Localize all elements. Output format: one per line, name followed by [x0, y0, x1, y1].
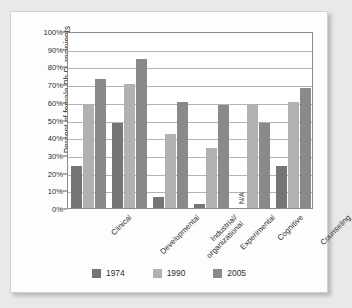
- y-tick-label: 80%: [29, 63, 63, 72]
- y-tick-label: 90%: [29, 45, 63, 54]
- y-tick-label: 30%: [29, 151, 63, 160]
- bar-2005: [177, 102, 188, 208]
- na-annotation: N/A: [238, 192, 245, 204]
- x-tick-label: Cognitive: [275, 213, 304, 242]
- legend-swatch-icon: [92, 269, 101, 278]
- y-tick-label: 40%: [29, 134, 63, 143]
- bar-1990: [288, 102, 299, 208]
- bar-group: [150, 33, 191, 208]
- bar-1974: [194, 204, 205, 208]
- plot-area: N/A: [67, 32, 313, 209]
- y-tick-label: 50%: [29, 116, 63, 125]
- legend-label: 2005: [227, 268, 246, 278]
- bar-2005: [259, 123, 270, 208]
- bar-group: [273, 33, 314, 208]
- x-tick-label: Clinical: [109, 213, 133, 237]
- bar-group: [68, 33, 109, 208]
- bar-1990: [247, 104, 258, 208]
- legend-item: 2005: [213, 268, 246, 278]
- bar-1974: [71, 166, 82, 208]
- x-tick-label: Counseling: [318, 213, 352, 247]
- x-tick-label: Industrial/organizational: [198, 213, 245, 260]
- bar-1974: [153, 197, 164, 208]
- bar-1974: [276, 166, 287, 208]
- bar-2005: [218, 105, 229, 208]
- legend-swatch-icon: [213, 269, 222, 278]
- bar-2005: [300, 88, 311, 208]
- y-tick-label: 20%: [29, 169, 63, 178]
- chart-card: Percent of female Ph.D. recipients 100%9…: [10, 11, 328, 293]
- y-tick-label: 0%: [29, 205, 63, 214]
- y-tick-label: 10%: [29, 187, 63, 196]
- bar-1990: [83, 105, 94, 208]
- x-tick-label: Experimental: [238, 213, 277, 252]
- bar-group: [109, 33, 150, 208]
- y-tick-label: 100%: [29, 28, 63, 37]
- bar-1990: [165, 134, 176, 208]
- bar-2005: [136, 59, 147, 208]
- bar-group: N/A: [232, 33, 273, 208]
- bar-group: [191, 33, 232, 208]
- legend-item: 1990: [153, 268, 186, 278]
- legend-item: 1974: [92, 268, 125, 278]
- x-tick-label: Developmental: [158, 213, 201, 256]
- bar-1990: [124, 84, 135, 208]
- bar-1974: [112, 123, 123, 208]
- x-axis-labels: ClinicalDevelopmentalIndustrial/organiza…: [67, 209, 313, 271]
- bar-2005: [95, 79, 106, 208]
- y-tick-label: 70%: [29, 81, 63, 90]
- bar-1990: [206, 148, 217, 208]
- chart-legend: 197419902005: [11, 268, 327, 278]
- legend-label: 1974: [106, 268, 125, 278]
- y-tick-label: 60%: [29, 98, 63, 107]
- legend-label: 1990: [167, 268, 186, 278]
- legend-swatch-icon: [153, 269, 162, 278]
- y-axis: Percent of female Ph.D. recipients 100%9…: [21, 32, 67, 209]
